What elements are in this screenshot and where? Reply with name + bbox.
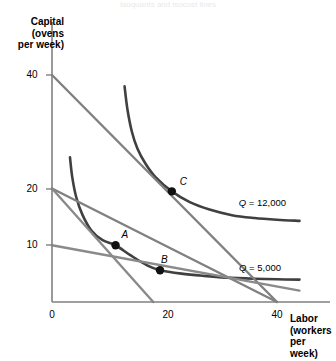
y-tick-label-10: 10	[22, 239, 42, 250]
data-point-a	[111, 241, 119, 249]
x-tick-label-40: 40	[267, 309, 287, 320]
point-label-b: B	[161, 254, 168, 265]
isoquant-q-symbol-0: Q	[239, 197, 246, 208]
isoquant-q-symbol-1: Q	[239, 262, 246, 273]
data-point-b	[156, 266, 164, 274]
x-tick-label-20: 20	[158, 309, 178, 320]
point-label-a: A	[122, 229, 129, 240]
y-tick-label-40: 40	[22, 69, 42, 80]
isoquant-label-1: Q = 5,000	[239, 262, 281, 273]
data-point-c	[168, 187, 176, 195]
isoquant-isocost-chart	[0, 0, 336, 361]
point-label-c: C	[180, 176, 187, 187]
y-axis-title: Capital (ovens per week)	[4, 16, 64, 51]
isoquant-label-0: Q = 12,000	[239, 197, 286, 208]
isocost-isocost-low	[52, 189, 153, 303]
x-axis-title: Labor (workers per week)	[290, 313, 336, 359]
axes-layer	[46, 22, 330, 302]
x-tick-label-0: 0	[42, 309, 62, 320]
y-tick-label-20: 20	[22, 183, 42, 194]
